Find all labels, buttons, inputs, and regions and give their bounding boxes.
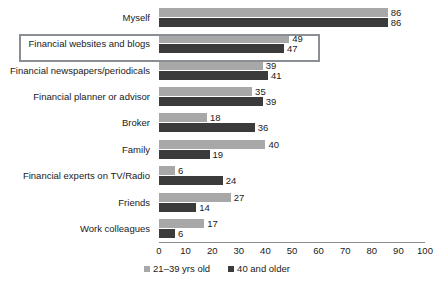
bar-group: 176 <box>159 216 425 242</box>
legend-swatch-icon <box>228 266 234 272</box>
bar-value-label: 35 <box>255 87 266 96</box>
bar-value-label: 39 <box>266 97 277 106</box>
bar-value-label: 6 <box>178 166 183 175</box>
legend-entry: 21–39 yrs old <box>144 263 210 274</box>
category-label: Financial experts on TV/Radio <box>0 163 155 189</box>
category-label: Friends <box>0 189 155 215</box>
legend-label: 40 and older <box>237 263 290 274</box>
legend-swatch-icon <box>144 266 150 272</box>
category-label: Family <box>0 136 155 162</box>
bar-value-label: 86 <box>391 8 402 17</box>
bar-line: 39 <box>159 61 425 70</box>
bar-line: 19 <box>159 150 425 159</box>
bar-line: 17 <box>159 219 425 228</box>
bar-value-label: 86 <box>391 18 402 27</box>
bar-value-label: 39 <box>266 61 277 70</box>
bar-line: 6 <box>159 229 425 238</box>
bar-value-label: 19 <box>213 150 224 159</box>
bar-value-label: 18 <box>210 113 221 122</box>
x-axis-line <box>159 242 425 243</box>
bar-value-label: 36 <box>258 123 269 132</box>
bar <box>159 166 175 175</box>
bar-line: 6 <box>159 166 425 175</box>
bar-line: 49 <box>159 34 425 43</box>
bar-group: 624 <box>159 163 425 189</box>
x-tick-label: 30 <box>234 245 245 256</box>
category-label: Broker <box>0 110 155 136</box>
bar-line: 40 <box>159 140 425 149</box>
bar <box>159 140 265 149</box>
bar <box>159 34 289 43</box>
bar <box>159 113 207 122</box>
bar <box>159 61 263 70</box>
bar <box>159 123 255 132</box>
bar-line: 24 <box>159 176 425 185</box>
x-tick-label: 0 <box>156 245 161 256</box>
bar-line: 47 <box>159 44 425 53</box>
x-tick-label: 40 <box>260 245 271 256</box>
bar <box>159 203 196 212</box>
bar-line: 86 <box>159 8 425 17</box>
chart-legend: 21–39 yrs old40 and older <box>0 263 434 274</box>
bar-line: 36 <box>159 123 425 132</box>
x-tick-label: 10 <box>180 245 191 256</box>
x-axis-tick-labels: 0102030405060708090100 <box>159 245 425 259</box>
bar-value-label: 14 <box>199 203 210 212</box>
bar <box>159 71 268 80</box>
x-tick-label: 90 <box>393 245 404 256</box>
bar-group: 3941 <box>159 57 425 83</box>
legend-entry: 40 and older <box>228 263 290 274</box>
bar-value-label: 17 <box>207 219 218 228</box>
bar-line: 41 <box>159 71 425 80</box>
bar-line: 27 <box>159 193 425 202</box>
x-tick-label: 50 <box>287 245 298 256</box>
bar-chart: MyselfFinancial websites and blogsFinanc… <box>0 0 434 285</box>
bar <box>159 219 204 228</box>
bar-group: 1836 <box>159 110 425 136</box>
category-label: Financial newspapers/periodicals <box>0 57 155 83</box>
bar-group: 4019 <box>159 136 425 162</box>
legend-label: 21–39 yrs old <box>153 263 210 274</box>
bar-value-label: 40 <box>268 140 279 149</box>
bar-value-label: 41 <box>271 71 282 80</box>
category-label: Work colleagues <box>0 216 155 242</box>
bar-group: 8686 <box>159 4 425 30</box>
bar <box>159 193 231 202</box>
bar <box>159 229 175 238</box>
category-label: Financial websites and blogs <box>0 30 155 56</box>
x-tick-label: 60 <box>313 245 324 256</box>
bar-rows: 8686494739413539183640196242714176 <box>159 4 425 242</box>
x-tick-label: 100 <box>417 245 433 256</box>
bar-line: 14 <box>159 203 425 212</box>
x-tick-label: 80 <box>367 245 378 256</box>
bar-value-label: 27 <box>234 193 245 202</box>
bar <box>159 8 388 17</box>
x-tick-label: 20 <box>207 245 218 256</box>
bar-group: 2714 <box>159 189 425 215</box>
bar <box>159 150 210 159</box>
bar-line: 18 <box>159 113 425 122</box>
x-tick-label: 70 <box>340 245 351 256</box>
bar <box>159 87 252 96</box>
bar-value-label: 49 <box>292 34 303 43</box>
bar <box>159 176 223 185</box>
plot-area: 8686494739413539183640196242714176 <box>159 4 425 242</box>
bar-line: 86 <box>159 18 425 27</box>
bar-value-label: 6 <box>178 229 183 238</box>
bar <box>159 44 284 53</box>
bar <box>159 97 263 106</box>
bar-group: 3539 <box>159 83 425 109</box>
bar-line: 39 <box>159 97 425 106</box>
category-axis-labels: MyselfFinancial websites and blogsFinanc… <box>0 4 155 242</box>
bar-line: 35 <box>159 87 425 96</box>
bar <box>159 18 388 27</box>
category-label: Myself <box>0 4 155 30</box>
bar-value-label: 24 <box>226 176 237 185</box>
category-label: Financial planner or advisor <box>0 83 155 109</box>
bar-group: 4947 <box>159 30 425 56</box>
bar-value-label: 47 <box>287 44 298 53</box>
